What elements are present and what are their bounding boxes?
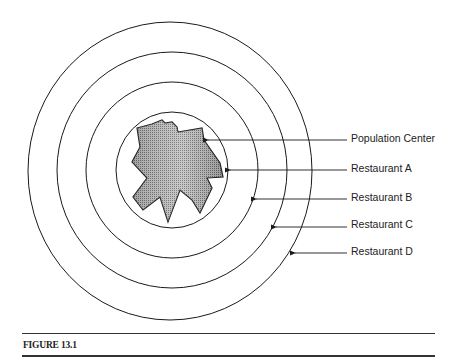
label-population-center: Population Center	[351, 132, 435, 144]
market-area-diagram	[0, 0, 455, 360]
label-restaurant-d: Restaurant D	[351, 245, 413, 257]
caption-rule-top	[22, 333, 435, 334]
label-restaurant-a: Restaurant A	[351, 162, 412, 174]
caption-rule-bottom	[22, 355, 435, 357]
label-restaurant-b: Restaurant B	[351, 191, 412, 203]
label-restaurant-c: Restaurant C	[351, 218, 413, 230]
population-center-shape	[132, 120, 223, 222]
figure-caption: FIGURE 13.1	[23, 340, 77, 350]
